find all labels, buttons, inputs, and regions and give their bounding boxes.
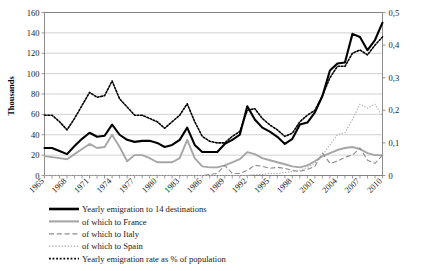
x-tick-label: 1977 bbox=[117, 176, 136, 195]
axis-tickmarks bbox=[42, 13, 386, 179]
y-tick-label: 120 bbox=[27, 48, 40, 58]
y-axis-tick-labels: 020406080100120140160 bbox=[27, 8, 40, 181]
series-total-emigration bbox=[45, 23, 383, 154]
x-tick-label: 1965 bbox=[27, 176, 46, 195]
y-tick-label: 140 bbox=[27, 28, 40, 38]
y2-tick-label: 0,2 bbox=[389, 105, 400, 115]
legend-item: Yearly emigration to 14 destinations bbox=[49, 204, 207, 214]
y-tick-label: 100 bbox=[27, 69, 40, 79]
x-tick-label: 1989 bbox=[207, 176, 226, 195]
y2-tick-label: 0,4 bbox=[389, 40, 400, 50]
x-tick-label: 1968 bbox=[49, 176, 68, 195]
chart-figure: 020406080100120140160 00,10,20,30,40,5 1… bbox=[0, 0, 421, 271]
y-axis-title-text: Thousands bbox=[6, 75, 16, 115]
legend-label: of which to France bbox=[82, 217, 147, 227]
y-tick-label: 40 bbox=[31, 130, 40, 140]
secondary-y-axis-tick-labels: 00,10,20,30,40,5 bbox=[389, 8, 400, 181]
x-tick-label: 1971 bbox=[72, 176, 91, 195]
x-tick-label: 1980 bbox=[139, 176, 158, 195]
emigration-line-chart: 020406080100120140160 00,10,20,30,40,5 1… bbox=[0, 0, 421, 271]
legend-label: of which to Spain bbox=[82, 241, 144, 251]
y-tick-label: 60 bbox=[31, 109, 40, 119]
x-tick-label: 2001 bbox=[297, 176, 316, 195]
x-tick-label: 1986 bbox=[185, 176, 204, 195]
y-axis-title: Thousands bbox=[6, 75, 16, 115]
x-axis-tick-labels: 1965196819711974197719801983198619891992… bbox=[27, 175, 384, 195]
data-series bbox=[45, 23, 383, 176]
y-tick-label: 80 bbox=[31, 89, 40, 99]
x-tick-label: 2010 bbox=[365, 176, 384, 195]
legend-item: of which to France bbox=[49, 217, 147, 227]
y2-tick-label: 0,3 bbox=[389, 73, 400, 83]
y-tick-label: 20 bbox=[31, 150, 40, 160]
legend-item: of which to Italy bbox=[49, 229, 140, 239]
x-tick-label: 1998 bbox=[275, 176, 294, 195]
legend-label: of which to Italy bbox=[82, 229, 140, 239]
y2-tick-label: 0,1 bbox=[389, 138, 400, 148]
chart-legend: Yearly emigration to 14 destinationsof w… bbox=[49, 204, 226, 264]
legend-item: of which to Spain bbox=[49, 241, 144, 251]
legend-label: Yearly emigration to 14 destinations bbox=[82, 204, 207, 214]
series-spain bbox=[45, 104, 383, 175]
y2-tick-label: 0 bbox=[389, 171, 393, 181]
y2-tick-label: 0,5 bbox=[389, 8, 400, 18]
x-tick-label: 1992 bbox=[230, 176, 249, 195]
legend-item: Yearly emigration rate as % of populatio… bbox=[49, 254, 226, 264]
x-tick-label: 2007 bbox=[342, 176, 361, 195]
x-tick-label: 1995 bbox=[252, 176, 271, 195]
x-tick-label: 1983 bbox=[162, 176, 181, 195]
series-emigration-rate bbox=[45, 37, 383, 143]
y-tick-label: 160 bbox=[27, 8, 40, 18]
legend-label: Yearly emigration rate as % of populatio… bbox=[82, 254, 226, 264]
